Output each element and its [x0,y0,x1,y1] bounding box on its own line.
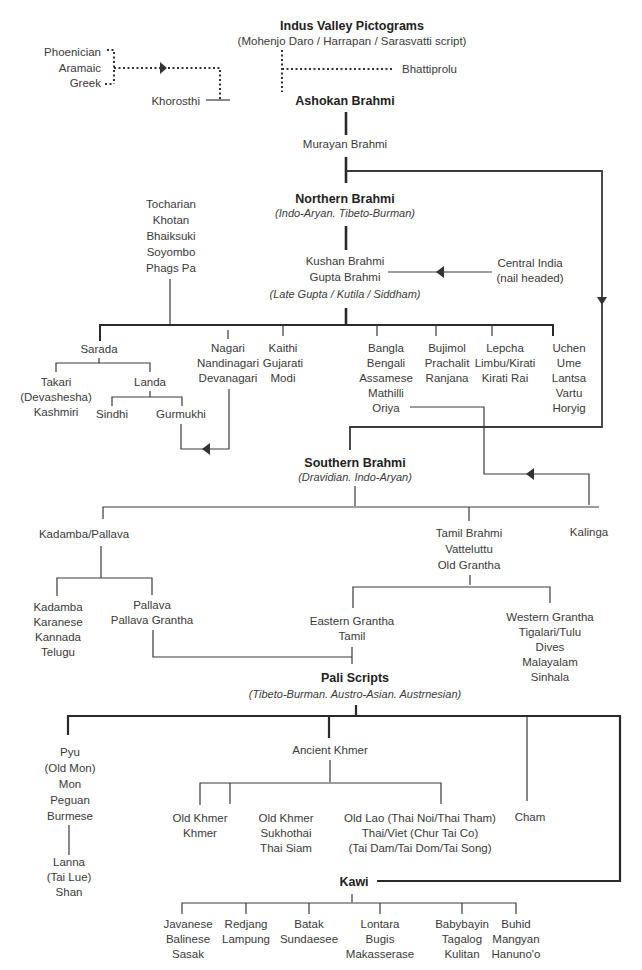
branch-ticks [228,325,492,339]
node-kushan-subtitle: (Late Gupta / Kutila / Siddham) [269,288,420,300]
node-sinhala: Sinhala [531,671,570,683]
node-tai-lue: (Tai Lue) [47,871,92,883]
node-kulitan: Kulitan [444,948,479,960]
node-lampung: Lampung [222,933,270,945]
node-khmer: Khmer [183,827,217,839]
node-phags-pa: Phags Pa [146,262,196,274]
node-pallava: Pallava [133,599,171,611]
node-kannada: Kannada [35,631,82,643]
node-sasak: Sasak [172,948,204,960]
node-vatteluttu: Vatteluttu [445,543,493,555]
node-sindhi: Sindhi [96,408,128,420]
node-mangyan: Mangyan [492,933,539,945]
node-mathilli: Mathilli [368,387,404,399]
node-landa: Landa [134,376,167,388]
node-prachalit: Prachalit [425,357,471,369]
node-old-mon: (Old Mon) [44,762,95,774]
node-gupta-brahmi: Gupta Brahmi [310,271,381,283]
dotted-connector-western [105,50,220,100]
node-central-india-sub: (nail headed) [496,272,563,284]
node-kashmiri: Kashmiri [34,406,79,418]
arrow-head [597,297,607,305]
line-pallava-pali [153,630,352,657]
node-northern-brahmi: Northern Brahmi [295,192,394,206]
node-shan: Shan [56,886,83,898]
script-family-tree: Indus Valley Pictograms (Mohenjo Daro / … [0,0,642,970]
node-buhid: Buhid [501,918,530,930]
node-ume: Ume [557,357,581,369]
node-sarada: Sarada [80,343,118,355]
node-old-lao: Old Lao (Thai Noi/Thai Tham) [344,812,496,824]
arrow-head [436,266,444,278]
node-pyu: Pyu [60,746,80,758]
node-bengali: Bengali [367,357,405,369]
node-old-khmer-1: Old Khmer [173,812,228,824]
arrow-head [160,62,167,74]
node-indus-title: Indus Valley Pictograms [280,19,424,33]
node-karanese: Karanese [33,616,82,628]
node-sundaesee: Sundaesee [280,933,338,945]
node-southern-subtitle: (Dravidian. Indo-Aryan) [298,471,412,483]
line-oriya-kalinga [410,407,589,505]
node-sukhothai: Sukhothai [260,827,311,839]
node-eastern-grantha: Eastern Grantha [310,615,395,627]
node-telugu: Telugu [41,646,75,658]
node-modi: Modi [271,372,296,384]
node-ancient-khmer: Ancient Khmer [292,744,368,756]
node-kadamba: Kadamba [33,601,83,613]
node-oriya: Oriya [372,402,400,414]
node-pali-scripts: Pali Scripts [321,671,389,685]
pali-branch-bar [68,705,620,881]
node-devanagari: Devanagari [199,372,258,384]
node-phoenician: Phoenician [44,46,101,58]
node-balinese: Balinese [166,933,210,945]
node-lantsa: Lantsa [552,372,587,384]
line-landa [112,391,182,406]
node-tamil: Tamil [339,630,366,642]
node-northern-subtitle: (Indo-Aryan. Tibeto-Burman) [275,207,415,219]
node-bujimol: Bujimol [428,342,466,354]
line-old-grantha [353,575,550,608]
node-dives: Dives [536,641,565,653]
arrow-head [526,468,534,480]
node-kawi: Kawi [339,875,368,889]
node-redjang: Redjang [225,918,268,930]
node-kaithi: Kaithi [269,342,298,354]
node-pallava-grantha: Pallava Grantha [111,614,194,626]
node-soyombo: Soyombo [147,246,196,258]
node-batak: Batak [294,918,324,930]
node-limbu: Limbu/Kirati [475,357,536,369]
node-malayalam: Malayalam [522,656,578,668]
node-lanna: Lanna [53,856,86,868]
node-greek: Greek [70,77,102,89]
node-gurmukhi: Gurmukhi [156,408,206,420]
node-burmese: Burmese [47,810,93,822]
node-peguan: Peguan [50,794,90,806]
node-cham: Cham [515,811,546,823]
node-devashesha: (Devashesha) [20,391,92,403]
node-thai-viet: Thai/Viet (Chur Tai Co) [362,827,479,839]
node-lontara: Lontara [360,918,400,930]
node-thai-siam: Thai Siam [260,842,312,854]
node-aramaic: Aramaic [59,62,101,74]
node-uchen: Uchen [552,342,585,354]
node-bhaiksuki: Bhaiksuki [146,230,195,242]
node-kadamba-pallava: Kadamba/Pallava [39,528,130,540]
node-tigalari: Tigalari/Tulu [519,626,581,638]
northern-branch-bar [100,325,553,341]
node-horyig: Horyig [552,402,585,414]
node-mon: Mon [59,778,81,790]
node-nagari: Nagari [211,342,245,354]
node-khotan: Khotan [153,214,189,226]
line-kadamba-pallava [57,546,152,596]
node-old-grantha: Old Grantha [438,559,501,571]
node-vartu: Vartu [556,387,583,399]
node-javanese: Javanese [163,918,212,930]
node-southern-brahmi: Southern Brahmi [304,456,405,470]
node-kirati-rai: Kirati Rai [482,372,529,384]
node-tagalog: Tagalog [442,933,482,945]
node-tocharian: Tocharian [146,198,196,210]
node-old-khmer-2: Old Khmer [259,812,314,824]
node-hanunoo: Hanuno'o [492,948,541,960]
node-kalinga: Kalinga [570,526,609,538]
